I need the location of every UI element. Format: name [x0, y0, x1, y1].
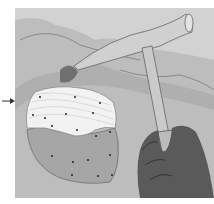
arrow-icon [2, 98, 15, 104]
fossil-excavation-illustration [0, 0, 214, 204]
